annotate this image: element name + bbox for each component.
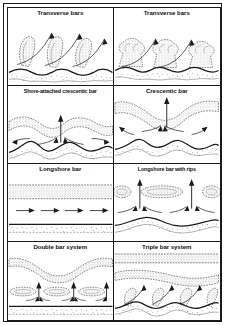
panel-grid: Transverse bars <box>7 7 220 320</box>
diagram-shore-attached-crescentic-bar <box>8 95 114 163</box>
diagram-crescentic-bar <box>114 95 220 163</box>
panel-title: Longshore bar with rips <box>114 165 220 173</box>
panel-longshore-bar: Longshore bar <box>7 163 115 242</box>
panel-triple-bar-system: Triple bar system <box>113 241 221 320</box>
diagram-double-bar-system <box>8 251 114 319</box>
diagram-longshore-bar <box>8 173 114 241</box>
panel-title: Transverse bars <box>8 9 114 17</box>
panel-title: Crescentic bar <box>114 87 220 95</box>
panel-title: Longshore bar <box>8 165 114 173</box>
panel-double-bar-system: Double bar system <box>7 241 115 320</box>
diagram-transverse-bars-b <box>114 17 220 85</box>
panel-transverse-bars-a: Transverse bars <box>7 7 115 86</box>
diagram-transverse-bars-a <box>8 17 114 85</box>
diagram-triple-bar-system <box>114 251 220 319</box>
panel-transverse-bars-b: Transverse bars <box>113 7 221 86</box>
panel-shore-attached-crescentic-bar: Shore-attached crescentic bar <box>7 85 115 164</box>
panel-longshore-bar-with-rips: Longshore bar with rips <box>113 163 221 242</box>
panel-title: Triple bar system <box>114 243 220 251</box>
panel-title: Double bar system <box>8 243 114 251</box>
panel-title: Transverse bars <box>114 9 220 17</box>
figure-frame: Transverse bars <box>3 3 222 322</box>
panel-crescentic-bar: Crescentic bar <box>113 85 221 164</box>
panel-title: Shore-attached crescentic bar <box>8 87 114 95</box>
diagram-longshore-bar-with-rips <box>114 173 220 241</box>
